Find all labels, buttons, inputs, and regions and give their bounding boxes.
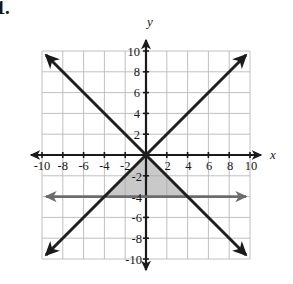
y-tick-label: 10 [128, 45, 141, 59]
coordinate-plane-graph: -10 -8 -6 -4 -2 2 4 6 8 10 10 8 6 4 2 -2… [0, 0, 293, 284]
x-tick-label: -2 [120, 159, 130, 173]
x-tick-label: -4 [99, 159, 110, 173]
y-tick-label: -6 [132, 211, 142, 225]
y-tick-label: 6 [134, 86, 140, 100]
x-tick-label: 6 [206, 159, 212, 173]
x-tick-label: 2 [164, 159, 170, 173]
y-tick-label: 4 [134, 107, 141, 121]
y-tick-label: -4 [132, 191, 143, 205]
x-tick-label: 4 [185, 159, 192, 173]
y-tick-label: -8 [132, 232, 142, 246]
y-tick-label: -2 [132, 170, 142, 184]
axis-name-labels: x y [145, 14, 276, 162]
y-tick-label: 2 [134, 128, 140, 142]
graph-figure: 1. [0, 0, 293, 284]
x-tick-label: 8 [227, 159, 233, 173]
x-tick-label: -8 [58, 159, 68, 173]
x-axis-name-label: x [269, 147, 276, 162]
x-tick-label: -6 [78, 159, 88, 173]
y-tick-label: -10 [125, 253, 142, 267]
x-tick-label: 10 [245, 159, 258, 173]
y-axis-name-label: y [145, 14, 153, 29]
x-tick-label: -10 [34, 159, 51, 173]
y-tick-label: 8 [134, 65, 140, 79]
